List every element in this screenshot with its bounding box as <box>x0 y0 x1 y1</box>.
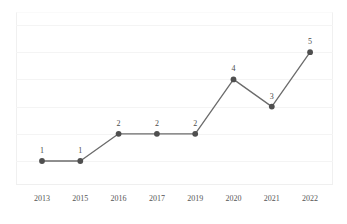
x-tick-label: 2020 <box>226 195 242 203</box>
data-point-marker[interactable] <box>39 158 45 164</box>
data-point-label: 3 <box>270 93 274 101</box>
data-point-label: 1 <box>78 147 82 155</box>
data-point-marker[interactable] <box>269 104 275 110</box>
data-point-label: 2 <box>193 120 197 128</box>
data-point-marker[interactable] <box>154 131 160 137</box>
data-point-label: 2 <box>117 120 121 128</box>
data-point-marker[interactable] <box>231 77 237 83</box>
line-chart: 11222435 2013201520162017201920202021202… <box>0 0 347 224</box>
x-tick-label: 2017 <box>149 195 165 203</box>
data-point-marker[interactable] <box>116 131 122 137</box>
data-point-marker[interactable] <box>307 49 313 55</box>
data-point-label: 5 <box>308 38 312 46</box>
series-graphic <box>0 0 347 224</box>
x-tick-label: 2013 <box>34 195 50 203</box>
data-point-label: 4 <box>232 65 236 73</box>
data-point-label: 2 <box>155 120 159 128</box>
data-point-label: 1 <box>40 147 44 155</box>
data-point-marker[interactable] <box>192 131 198 137</box>
x-tick-label: 2021 <box>264 195 280 203</box>
x-tick-label: 2016 <box>111 195 127 203</box>
data-point-marker[interactable] <box>77 158 83 164</box>
x-tick-label: 2015 <box>72 195 88 203</box>
x-tick-label: 2022 <box>302 195 318 203</box>
x-tick-label: 2019 <box>187 195 203 203</box>
